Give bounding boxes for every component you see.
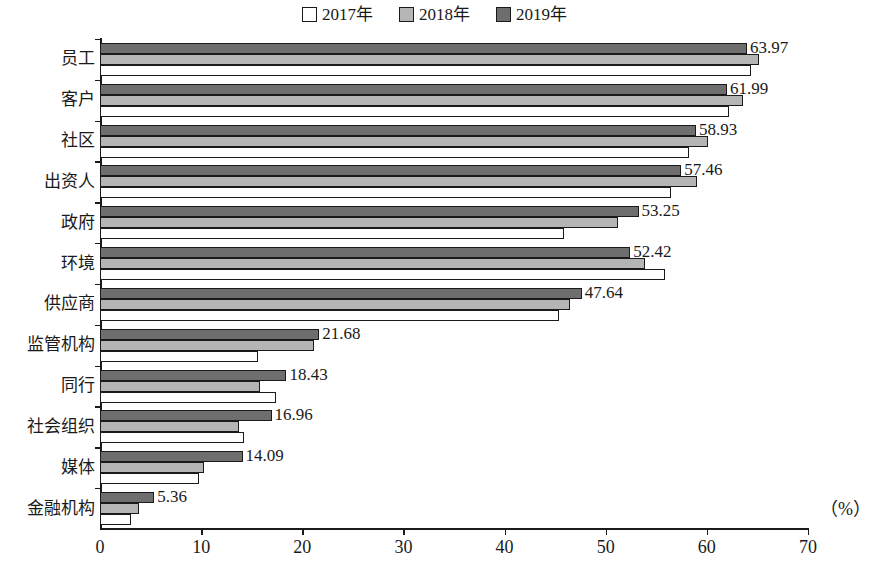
bar-value-label: 47.64 (582, 284, 623, 301)
legend-item-2017: 2017年 (302, 6, 373, 23)
bar-2017 (100, 473, 199, 484)
bar-2018 (100, 258, 645, 269)
bar-group: 63.97 (100, 43, 808, 76)
x-axis-line (100, 528, 809, 530)
y-axis-label-11: 金融机构 (4, 500, 100, 517)
bar-value-label: 52.42 (630, 243, 671, 260)
bar-group: 57.46 (100, 165, 808, 198)
bar-group: 58.93 (100, 125, 808, 158)
bar-group: 14.09 (100, 451, 808, 484)
bar-2017 (100, 269, 665, 280)
bar-2017 (100, 187, 671, 198)
x-axis-unit-label: （%） (820, 500, 869, 518)
y-axis-tick (95, 284, 100, 285)
bar-group: 61.99 (100, 84, 808, 117)
x-axis-tick (403, 528, 404, 535)
bar-2019 (100, 410, 272, 421)
x-axis-tick (707, 528, 708, 535)
bar-2018 (100, 381, 260, 392)
bar-value-label: 53.25 (639, 202, 680, 219)
bar-value-label: 14.09 (243, 447, 284, 464)
y-axis-label-6: 供应商 (4, 295, 100, 312)
grouped-bar-chart: 2017年 2018年 2019年 员工客户社区出资人政府环境供应商监管机构同行… (0, 0, 869, 561)
y-axis-tick (95, 447, 100, 448)
bar-2018 (100, 421, 239, 432)
bar-group: 53.25 (100, 206, 808, 239)
bar-2017 (100, 106, 729, 117)
chart-legend: 2017年 2018年 2019年 (0, 6, 869, 23)
y-axis-tick (95, 406, 100, 407)
bar-2017 (100, 351, 258, 362)
x-axis-label-70: 70 (799, 538, 817, 556)
bar-value-label: 63.97 (747, 39, 788, 56)
bar-2019 (100, 370, 286, 381)
x-axis-tick (505, 528, 506, 535)
bar-2017 (100, 310, 559, 321)
legend-label-2017: 2017年 (322, 6, 373, 23)
bar-2018 (100, 54, 759, 65)
y-axis-tick (95, 39, 100, 40)
bar-2019 (100, 125, 696, 136)
x-axis-label-30: 30 (394, 538, 412, 556)
y-axis-tick (95, 202, 100, 203)
x-axis-tick (201, 528, 202, 535)
bar-group: 21.68 (100, 329, 808, 362)
y-axis-label-5: 环境 (4, 255, 100, 272)
bar-2017 (100, 65, 751, 76)
bar-2019 (100, 329, 319, 340)
y-axis-category-labels: 员工客户社区出资人政府环境供应商监管机构同行社会组织媒体金融机构 (0, 38, 100, 528)
plot-area: 63.9761.9958.9357.4653.2552.4247.6421.68… (100, 38, 808, 528)
bar-2018 (100, 462, 204, 473)
legend-label-2018: 2018年 (419, 6, 470, 23)
y-axis-tick (95, 243, 100, 244)
x-axis-tick (606, 528, 607, 535)
y-axis-tick (95, 488, 100, 489)
bar-2019 (100, 43, 747, 54)
bar-2018 (100, 299, 570, 310)
x-axis-label-60: 60 (698, 538, 716, 556)
bar-value-label: 21.68 (319, 325, 360, 342)
bar-2018 (100, 217, 618, 228)
x-axis-label-20: 20 (293, 538, 311, 556)
bar-2017 (100, 514, 131, 525)
bar-2017 (100, 392, 276, 403)
x-axis-label-10: 10 (192, 538, 210, 556)
bar-group: 16.96 (100, 410, 808, 443)
y-axis-tick (95, 366, 100, 367)
bar-2018 (100, 503, 139, 514)
x-axis-label-40: 40 (496, 538, 514, 556)
light-gray-square-icon (399, 7, 414, 22)
x-axis-label-0: 0 (96, 538, 105, 556)
bar-value-label: 5.36 (154, 488, 187, 505)
y-axis-label-7: 监管机构 (4, 336, 100, 353)
x-axis-tick (302, 528, 303, 535)
x-axis-label-50: 50 (597, 538, 615, 556)
y-axis-tick (95, 325, 100, 326)
bar-2017 (100, 432, 244, 443)
y-axis-label-2: 社区 (4, 132, 100, 149)
bar-group: 47.64 (100, 288, 808, 321)
y-axis-label-8: 同行 (4, 377, 100, 394)
y-axis-label-4: 政府 (4, 214, 100, 231)
bar-group: 52.42 (100, 247, 808, 280)
legend-item-2019: 2019年 (496, 6, 567, 23)
y-axis-tick (95, 121, 100, 122)
bar-2018 (100, 176, 697, 187)
y-axis-label-10: 媒体 (4, 459, 100, 476)
bar-2019 (100, 206, 639, 217)
bar-2019 (100, 288, 582, 299)
x-axis-tick (808, 528, 809, 535)
y-axis-tick (95, 161, 100, 162)
y-axis-label-0: 员工 (4, 50, 100, 67)
bar-2018 (100, 95, 743, 106)
bar-value-label: 57.46 (681, 161, 722, 178)
bar-value-label: 16.96 (272, 406, 313, 423)
bar-2017 (100, 147, 689, 158)
white-square-icon (302, 7, 317, 22)
bar-2019 (100, 84, 727, 95)
legend-label-2019: 2019年 (516, 6, 567, 23)
bar-group: 18.43 (100, 370, 808, 403)
bar-2019 (100, 492, 154, 503)
bar-2019 (100, 247, 630, 258)
dark-gray-square-icon (496, 7, 511, 22)
